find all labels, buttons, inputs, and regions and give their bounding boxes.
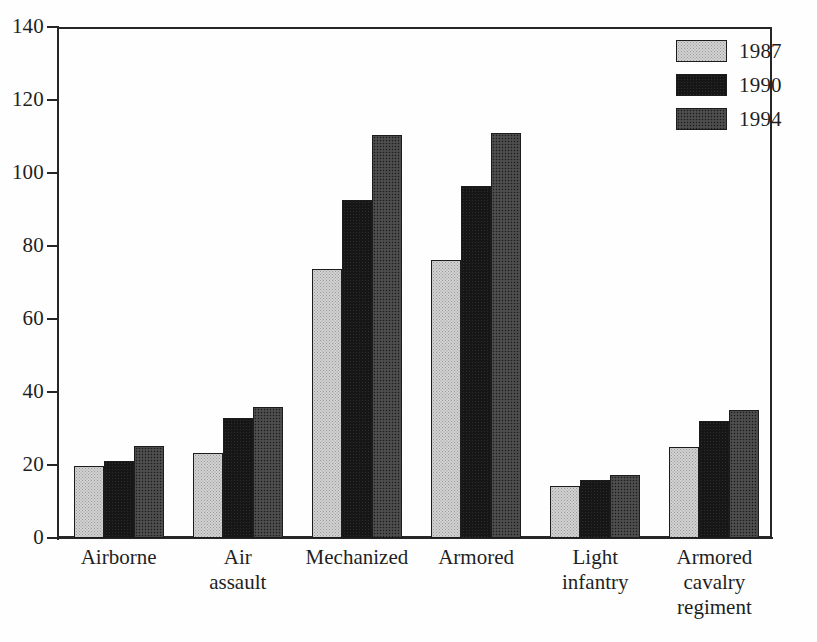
bars-container	[57, 27, 772, 538]
bar-1994-airborne	[134, 446, 164, 538]
bar-1990-airborne	[104, 461, 134, 538]
bar-1990-mechanized	[342, 200, 372, 538]
y-axis-tick	[47, 26, 57, 28]
y-axis-tick-label: 40	[0, 381, 44, 402]
y-axis-tick	[47, 537, 57, 539]
y-axis-tick-label: 60	[0, 308, 44, 329]
y-axis-tick	[47, 464, 57, 466]
bar-1990-air-assault	[223, 418, 253, 538]
x-axis-label-line: cavalry	[642, 570, 787, 595]
y-axis-tick-label: 120	[0, 89, 44, 110]
bar-1994-mechanized	[372, 135, 402, 538]
x-axis-label-line: regiment	[642, 595, 787, 620]
bar-1987-mechanized	[312, 269, 342, 538]
bar-1994-light-infantry	[610, 475, 640, 538]
y-axis-tick	[47, 391, 57, 393]
y-axis-tick-label: 100	[0, 162, 44, 183]
x-axis-labels: AirborneAirassaultMechanizedArmoredLight…	[57, 545, 772, 640]
y-axis-tick-label: 140	[0, 16, 44, 37]
legend-label: 1987	[739, 36, 782, 66]
bar-1994-air-assault	[253, 407, 283, 538]
legend-item: 1994	[676, 104, 796, 138]
bar-1987-armored-cavalry-regiment	[669, 447, 699, 538]
bar-1994-armored-cavalry-regiment	[729, 410, 759, 538]
legend-swatch-1994	[676, 108, 727, 130]
bar-1987-armored	[431, 260, 461, 538]
bar-1994-armored	[491, 133, 521, 538]
bar-1987-light-infantry	[550, 486, 580, 538]
y-axis-tick	[47, 318, 57, 320]
bar-1987-air-assault	[193, 453, 223, 538]
legend-label: 1994	[739, 104, 782, 134]
bar-1987-airborne	[74, 466, 104, 538]
y-axis-tick	[47, 172, 57, 174]
legend: 198719901994	[676, 36, 796, 138]
legend-swatch-1990	[676, 74, 727, 96]
bar-1990-light-infantry	[580, 480, 610, 538]
legend-label: 1990	[739, 70, 782, 100]
x-axis-label-line: Armored	[642, 545, 787, 570]
x-axis-group-label: Armoredcavalryregiment	[642, 545, 787, 620]
legend-item: 1990	[676, 70, 796, 104]
legend-swatch-1987	[676, 40, 727, 62]
y-axis-tick	[47, 245, 57, 247]
y-axis-tick-label: 20	[0, 454, 44, 475]
legend-item: 1987	[676, 36, 796, 70]
y-axis-tick	[47, 99, 57, 101]
bar-chart-figure: 020406080100120140 AirborneAirassaultMec…	[0, 0, 817, 642]
bar-1990-armored-cavalry-regiment	[699, 421, 729, 538]
x-axis-label-line: assault	[165, 570, 310, 595]
bar-1990-armored	[461, 186, 491, 538]
y-axis-tick-label: 0	[0, 527, 44, 548]
y-axis-tick-label: 80	[0, 235, 44, 256]
